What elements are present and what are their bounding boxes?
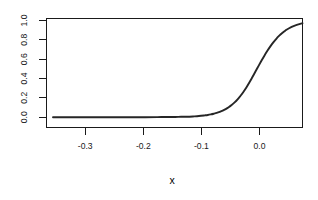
chart-container: 1.0 0.8 0.6 0.4 0.2 0.0 -0.3 -0.2 -0.1 0… [0, 0, 318, 200]
sigmoid-plot-svg: 1.0 0.8 0.6 0.4 0.2 0.0 -0.3 -0.2 -0.1 0… [0, 0, 318, 200]
y-tick-label-1-0: 1.0 [19, 14, 29, 26]
plot-background [0, 0, 318, 200]
y-tick-label-0-2: 0.2 [19, 92, 29, 104]
y-tick-label-0-8: 0.8 [19, 34, 29, 46]
y-tick-label-0-4: 0.4 [19, 72, 29, 84]
x-tick-label-neg-0-2: -0.2 [136, 141, 151, 151]
y-tick-label-0-6: 0.6 [19, 53, 29, 65]
y-tick-label-0-0: 0.0 [19, 111, 29, 123]
x-tick-label-neg-0-1: -0.1 [194, 141, 209, 151]
x-tick-label-neg-0-3: -0.3 [78, 141, 93, 151]
x-axis-title: x [169, 174, 175, 186]
x-tick-label-0-0: 0.0 [254, 141, 266, 151]
